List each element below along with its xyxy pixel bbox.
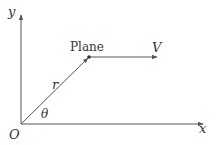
velocity-label: V (152, 41, 161, 54)
origin-label: O (9, 128, 20, 141)
x-axis-label: x (199, 122, 206, 135)
angle-theta-label: θ (41, 108, 48, 120)
plane-label: Plane (70, 41, 104, 53)
y-axis-label: y (8, 5, 15, 18)
position-vector-label: r (52, 78, 58, 91)
plane-point (87, 55, 91, 59)
polar-coordinates-diagram: y x O Plane V r θ (0, 0, 216, 145)
diagram-canvas (0, 0, 216, 145)
